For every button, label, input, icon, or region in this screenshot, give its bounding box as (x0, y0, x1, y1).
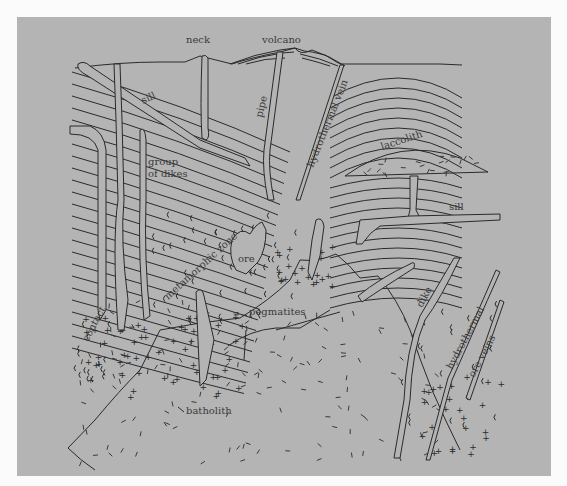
metamorphic-arc (103, 373, 105, 379)
metamorphic-arc (74, 365, 76, 371)
laccolith-dash (427, 169, 429, 174)
metamorphic-arc (418, 343, 420, 349)
batholith-dash (90, 389, 93, 393)
plus-mark: + (425, 387, 433, 397)
batholith-dash (109, 453, 113, 456)
plus-mark: + (235, 383, 243, 393)
label-volcano: volcano (261, 34, 301, 45)
metamorphic-arc (272, 256, 274, 262)
metamorphic-arc (84, 367, 86, 373)
batholith-dash (192, 402, 197, 403)
batholith-dash (243, 444, 244, 449)
ore-body (231, 222, 266, 274)
batholith-dash (188, 305, 190, 310)
batholith-dash (291, 357, 293, 362)
metamorphic-arc (184, 237, 186, 243)
batholith-dash (361, 414, 365, 417)
plus-mark: + (329, 242, 337, 252)
batholith-dash (182, 300, 183, 305)
batholith-dash (259, 369, 263, 372)
batholith-dash (338, 405, 341, 409)
batholith-dash (136, 300, 140, 302)
batholith-dash (113, 386, 117, 389)
plus-mark: + (181, 324, 189, 334)
plus-mark: + (286, 244, 294, 254)
plus-mark: + (298, 263, 306, 273)
metamorphic-arc (409, 414, 411, 420)
metamorphic-arc (264, 264, 266, 270)
batholith-dash (168, 320, 171, 324)
batholith-dash (136, 452, 138, 457)
batholith-dash (164, 340, 169, 341)
label-pegmatites: pegmatites (249, 306, 305, 317)
batholith-dash (346, 375, 347, 380)
batholith-dash (162, 350, 164, 355)
laccolith-dash (469, 156, 473, 159)
batholith-dash (318, 359, 321, 363)
laccolith-dash (444, 172, 449, 173)
plus-mark: + (214, 388, 222, 398)
batholith-dash (80, 380, 81, 385)
batholith-dash (364, 417, 367, 421)
batholith-dash (315, 322, 319, 325)
laccolith-dash (420, 165, 425, 167)
metamorphic-arc (82, 321, 84, 327)
plus-mark: + (310, 279, 318, 289)
batholith-dash (179, 358, 182, 362)
metamorphic-arc (264, 291, 266, 297)
label-group-of-dikes-2: of dikes (148, 168, 188, 179)
batholith-dash (288, 322, 291, 326)
metamorphic-arc (204, 238, 206, 244)
label-hydrothermal-ore-veins-2: ore veins (466, 333, 497, 379)
batholith-dash (351, 453, 352, 458)
laccolith-dash (367, 168, 370, 172)
plus-mark: + (132, 353, 140, 363)
plus-mark: + (436, 382, 444, 392)
batholith-dash (218, 330, 220, 334)
plus-mark: + (449, 446, 457, 456)
metamorphic-arc (409, 420, 411, 426)
plus-mark: + (188, 336, 196, 346)
batholith-dash (237, 446, 240, 450)
label-sill-upper: sill (139, 90, 157, 106)
plus-mark: + (185, 313, 193, 323)
plus-mark: + (276, 250, 284, 260)
laccolith-dash (464, 156, 467, 160)
plus-mark: + (215, 320, 223, 330)
plus-mark: + (190, 360, 198, 370)
stratum-line (330, 248, 462, 258)
laccolith (345, 150, 488, 218)
batholith-dash (107, 445, 108, 450)
plus-mark: + (435, 446, 443, 456)
batholith-dash (81, 402, 86, 404)
metamorphic-arc (295, 230, 297, 236)
plus-mark: + (419, 431, 427, 441)
plus-mark: + (467, 449, 475, 459)
batholith-dash (340, 344, 345, 345)
metamorphic-arc (440, 370, 442, 376)
batholith-dash (353, 311, 355, 316)
stratum-line (330, 188, 462, 198)
metamorphic-arc (495, 301, 497, 307)
batholith-dash (342, 317, 343, 322)
batholith-dash (168, 308, 170, 312)
metamorphic-arc (230, 264, 232, 270)
batholith-dash (317, 459, 322, 461)
metamorphic-arc (482, 378, 484, 384)
pipe (264, 52, 284, 200)
batholith-dash (435, 374, 439, 377)
batholith-dash (201, 461, 205, 464)
plus-mark: + (134, 320, 142, 330)
metamorphic-arc (152, 233, 154, 239)
plus-mark: + (155, 347, 163, 357)
batholith-dash (379, 439, 383, 441)
label-sill-lower: sill (449, 201, 464, 212)
laccolith-dash (364, 172, 368, 176)
batholith-dash (133, 417, 136, 421)
metamorphic-arc (421, 346, 423, 352)
plus-mark: + (169, 377, 177, 387)
batholith-dash (363, 451, 364, 456)
label-batholith: batholith (186, 405, 232, 416)
plus-mark: + (294, 277, 302, 287)
batholith-dash (280, 408, 282, 413)
